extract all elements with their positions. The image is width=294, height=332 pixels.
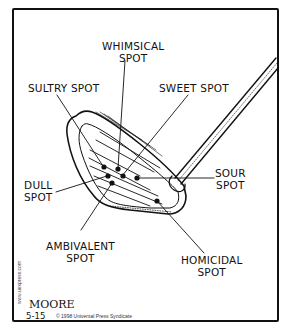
label-homicidal-spot: HOMICIDAL SPOT (181, 254, 242, 278)
artist-signature: MOORE (29, 298, 75, 311)
label-sultry-spot: SULTRY SPOT (28, 82, 99, 94)
copyright-notice: © 1998 Universal Press Syndicate (56, 313, 132, 319)
label-dull-spot: DULL SPOT (24, 179, 52, 203)
website-credit: www.uexpress.com (16, 261, 22, 304)
label-ambivalent-spot: AMBIVALENT SPOT (46, 240, 115, 264)
label-sour-spot: SOUR SPOT (215, 167, 246, 191)
date-stamp: 5-15 (26, 311, 45, 321)
label-whimsical-spot: WHIMSICAL SPOT (102, 40, 164, 64)
label-sweet-spot: SWEET SPOT (159, 82, 229, 94)
